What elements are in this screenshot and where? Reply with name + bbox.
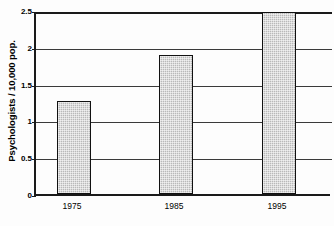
y-axis-tick-label-0-5: 0.5: [2, 155, 32, 163]
y-axis-tick-label-1: 1: [2, 118, 32, 126]
bar-1995: [262, 12, 296, 195]
y-axis-tick-label-1-5: 1.5: [2, 82, 32, 90]
x-axis-tick-label-1985: 1985: [144, 201, 204, 211]
bar-1975: [57, 101, 91, 195]
y-tick-mark-0: [32, 196, 36, 197]
bar-1985: [159, 55, 193, 194]
bar-chart: Psychologists / 10,000 pop. 2.5 2 1.5 1 …: [0, 0, 334, 226]
y-tick-mark-0-5: [32, 159, 36, 160]
y-axis-tick-label-0: 0: [2, 192, 32, 200]
x-axis-tick-label-1975: 1975: [42, 201, 102, 211]
y-axis-tick-label-2: 2: [2, 45, 32, 53]
plot-area: [34, 12, 330, 196]
y-tick-mark-2-5: [32, 12, 36, 13]
y-tick-mark-1: [32, 122, 36, 123]
y-tick-mark-1-5: [32, 86, 36, 87]
y-axis-tick-label-2-5: 2.5: [2, 8, 32, 16]
y-tick-mark-2: [32, 49, 36, 50]
y-axis-title: Psychologists / 10,000 pop.: [5, 6, 19, 196]
x-axis-tick-label-1995: 1995: [247, 201, 307, 211]
